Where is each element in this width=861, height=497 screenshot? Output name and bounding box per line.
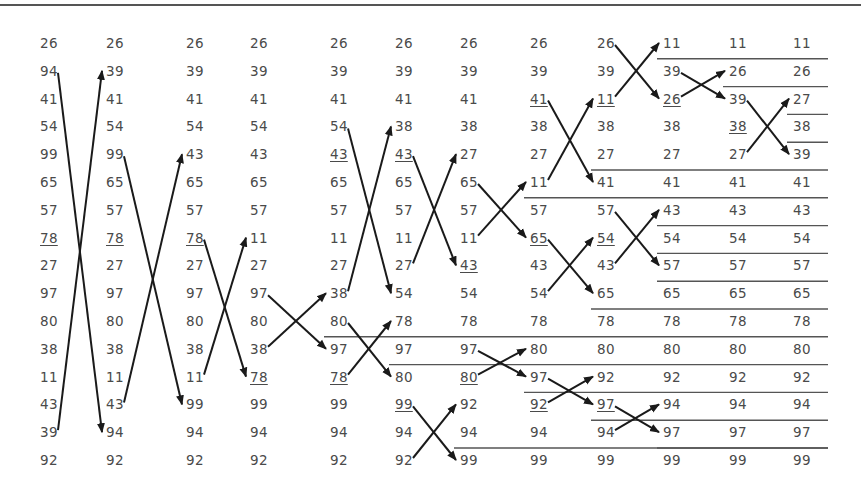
- cell-value: 78: [106, 230, 124, 246]
- cell-value: 39: [793, 146, 811, 162]
- cell-value: 65: [663, 285, 681, 301]
- cell-value: 43: [793, 202, 811, 218]
- cell-value: 80: [663, 341, 681, 357]
- swap-arrow: [548, 377, 593, 403]
- cell-value: 57: [793, 257, 811, 273]
- cell-value: 80: [793, 341, 811, 357]
- cell-value: 43: [250, 146, 268, 162]
- cell-value: 54: [330, 118, 348, 134]
- cell-value: 27: [395, 257, 413, 273]
- cell-value: 92: [793, 369, 811, 385]
- cell-value: 26: [250, 35, 268, 51]
- cell-value: 11: [330, 230, 348, 246]
- cell-value: 80: [186, 313, 204, 329]
- cell-value: 39: [395, 63, 413, 79]
- cell-value: 41: [40, 91, 58, 107]
- cell-value: 94: [40, 63, 58, 79]
- cell-value: 57: [597, 202, 615, 218]
- cell-value: 65: [530, 230, 548, 246]
- cell-value: 43: [729, 202, 747, 218]
- cell-value: 43: [597, 257, 615, 273]
- cell-value: 54: [395, 285, 413, 301]
- cell-value: 65: [250, 174, 268, 190]
- cell-value: 99: [460, 452, 478, 468]
- cell-value: 54: [597, 230, 615, 246]
- cell-value: 26: [530, 35, 548, 51]
- cell-value: 26: [460, 35, 478, 51]
- cell-value: 57: [663, 257, 681, 273]
- cell-value: 38: [186, 341, 204, 357]
- cell-value: 65: [597, 285, 615, 301]
- cell-value: 54: [40, 118, 58, 134]
- cell-value: 65: [40, 174, 58, 190]
- cell-value: 54: [186, 118, 204, 134]
- cell-value: 26: [793, 63, 811, 79]
- cell-value: 27: [663, 146, 681, 162]
- cell-value: 92: [186, 452, 204, 468]
- cell-value: 39: [729, 91, 747, 107]
- cell-value: 97: [663, 424, 681, 440]
- cell-value: 80: [460, 369, 478, 385]
- cell-value: 43: [40, 396, 58, 412]
- swap-arrow: [548, 238, 593, 292]
- cell-value: 11: [186, 369, 204, 385]
- cell-value: 41: [106, 91, 124, 107]
- cell-value: 38: [40, 341, 58, 357]
- cell-value: 39: [186, 63, 204, 79]
- swap-arrow: [478, 184, 526, 238]
- cell-value: 39: [530, 63, 548, 79]
- swap-arrow: [348, 321, 391, 375]
- cell-value: 97: [40, 285, 58, 301]
- cell-value: 80: [250, 313, 268, 329]
- cell-value: 27: [793, 91, 811, 107]
- swap-arrow: [268, 295, 326, 349]
- cell-value: 39: [460, 63, 478, 79]
- cell-value: 11: [663, 35, 681, 51]
- cell-value: 41: [729, 174, 747, 190]
- cell-value: 11: [40, 369, 58, 385]
- cell-value: 54: [793, 230, 811, 246]
- cell-value: 94: [793, 396, 811, 412]
- cell-value: 27: [106, 257, 124, 273]
- cell-value: 43: [395, 146, 413, 162]
- cell-value: 54: [460, 285, 478, 301]
- cell-value: 80: [395, 369, 413, 385]
- cell-value: 94: [663, 396, 681, 412]
- cell-value: 26: [186, 35, 204, 51]
- cell-value: 43: [530, 257, 548, 273]
- swap-arrow: [413, 404, 456, 458]
- cell-value: 97: [530, 369, 548, 385]
- cell-value: 92: [663, 369, 681, 385]
- cell-value: 43: [330, 146, 348, 162]
- cell-value: 57: [330, 202, 348, 218]
- cell-value: 43: [460, 257, 478, 273]
- swap-arrow: [615, 404, 659, 430]
- cell-value: 38: [330, 285, 348, 301]
- cell-value: 27: [597, 146, 615, 162]
- cell-value: 11: [729, 35, 747, 51]
- cell-value: 38: [597, 118, 615, 134]
- cell-value: 27: [186, 257, 204, 273]
- cell-value: 94: [395, 424, 413, 440]
- cell-value: 54: [106, 118, 124, 134]
- cell-value: 97: [106, 285, 124, 301]
- cell-value: 78: [597, 313, 615, 329]
- swap-arrow: [615, 406, 659, 432]
- cell-value: 54: [729, 230, 747, 246]
- cell-value: 57: [395, 202, 413, 218]
- cell-value: 99: [250, 396, 268, 412]
- cell-value: 92: [250, 452, 268, 468]
- cell-value: 65: [729, 285, 747, 301]
- cell-value: 38: [729, 118, 747, 134]
- cell-value: 11: [106, 369, 124, 385]
- swap-arrow: [615, 45, 659, 99]
- cell-value: 78: [729, 313, 747, 329]
- cell-value: 27: [460, 146, 478, 162]
- swap-arrow: [348, 323, 391, 377]
- cell-value: 38: [793, 118, 811, 134]
- cell-value: 94: [186, 424, 204, 440]
- cell-value: 99: [597, 452, 615, 468]
- cell-value: 97: [597, 396, 615, 412]
- swap-arrow: [268, 293, 326, 347]
- swap-arrow: [615, 212, 659, 266]
